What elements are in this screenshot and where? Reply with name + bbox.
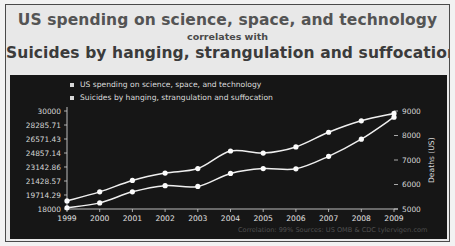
x-axis-label: 2009 bbox=[384, 214, 403, 223]
left-axis-label: 30000 bbox=[37, 107, 61, 116]
data-point bbox=[293, 144, 298, 149]
data-point bbox=[130, 189, 135, 194]
chart-footnote: Correlation: 99% Sources: US OMB & CDC t… bbox=[238, 226, 427, 234]
right-axis-label: 8000 bbox=[402, 131, 421, 140]
x-axis-label: 2008 bbox=[352, 214, 371, 223]
plot-panel: US spending on science, space, and techn… bbox=[10, 75, 447, 239]
left-axis-label: 26571.43 bbox=[26, 135, 62, 144]
data-point bbox=[64, 198, 69, 203]
x-axis-label: 1999 bbox=[57, 214, 76, 223]
data-point bbox=[261, 166, 266, 171]
data-point bbox=[97, 189, 102, 194]
chart-card: US spending on science, space, and techn… bbox=[5, 4, 450, 242]
title-line-2: correlates with bbox=[6, 30, 449, 43]
x-axis-label: 2007 bbox=[319, 214, 338, 223]
data-point bbox=[326, 130, 331, 135]
series-layer bbox=[64, 111, 396, 211]
chart-header: US spending on science, space, and techn… bbox=[6, 5, 449, 73]
data-point bbox=[326, 154, 331, 159]
chart-plot-area: 1800019714.2921428.5723142.8624857.14265… bbox=[10, 75, 447, 239]
data-point bbox=[163, 183, 168, 188]
x-axis-label: 2003 bbox=[188, 214, 207, 223]
left-axis-label: 24857.14 bbox=[26, 149, 62, 158]
data-point bbox=[64, 205, 69, 210]
data-point bbox=[195, 166, 200, 171]
left-axis-label: 18000 bbox=[37, 205, 61, 214]
data-point bbox=[97, 200, 102, 205]
data-point bbox=[391, 115, 396, 120]
x-axis-label: 2001 bbox=[123, 214, 142, 223]
left-axis-label: 19714.29 bbox=[26, 191, 62, 200]
series-line-suicides bbox=[67, 117, 394, 208]
data-point bbox=[163, 170, 168, 175]
right-axis-title: Deaths (US) bbox=[427, 137, 436, 183]
x-axis-label: 2006 bbox=[286, 214, 305, 223]
page-background: US spending on science, space, and techn… bbox=[0, 0, 455, 246]
series-line-spending bbox=[67, 113, 394, 200]
right-axis-label: 6000 bbox=[402, 180, 421, 189]
title-line-3: Suicides by hanging, strangulation and s… bbox=[6, 43, 449, 63]
title-line-1: US spending on science, space, and techn… bbox=[6, 10, 449, 30]
data-point bbox=[228, 171, 233, 176]
x-axis-label: 2005 bbox=[254, 214, 273, 223]
right-axis-label: 5000 bbox=[402, 205, 421, 214]
data-point bbox=[130, 178, 135, 183]
data-point bbox=[228, 148, 233, 153]
left-axis-label: 21428.57 bbox=[26, 177, 62, 186]
left-axis-label: 28285.71 bbox=[26, 121, 62, 130]
x-axis-label: 2002 bbox=[155, 214, 174, 223]
data-point bbox=[293, 166, 298, 171]
data-point bbox=[195, 184, 200, 189]
x-axis-label: 2004 bbox=[221, 214, 240, 223]
data-point bbox=[261, 150, 266, 155]
left-axis-label: 23142.86 bbox=[26, 163, 62, 172]
data-point bbox=[359, 118, 364, 123]
data-point bbox=[359, 137, 364, 142]
right-axis-label: 7000 bbox=[402, 156, 421, 165]
x-axis-label: 2000 bbox=[90, 214, 109, 223]
right-axis-label: 9000 bbox=[402, 107, 421, 116]
